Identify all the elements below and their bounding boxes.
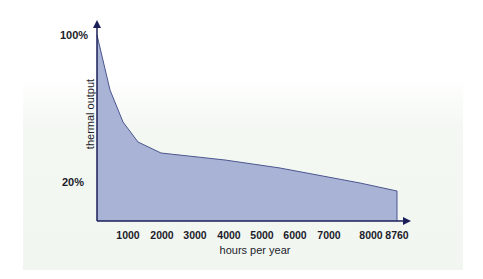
x-tick-3000: 3000 <box>183 229 206 241</box>
x-tick-4000: 4000 <box>217 229 240 241</box>
y-axis-title: thermal output <box>84 79 96 149</box>
area-fill <box>97 35 397 221</box>
x-axis-title: hours per year <box>220 244 291 256</box>
x-tick-8760: 8760 <box>385 229 408 241</box>
duration-curve-chart <box>0 0 483 279</box>
x-tick-2000: 2000 <box>150 229 173 241</box>
y-tick-100: 100% <box>60 29 88 41</box>
x-tick-7000: 7000 <box>317 229 340 241</box>
x-tick-6000: 6000 <box>283 229 306 241</box>
y-axis-arrow-icon <box>93 20 101 28</box>
x-tick-8000: 8000 <box>359 229 382 241</box>
x-tick-1000: 1000 <box>116 229 139 241</box>
x-axis-arrow-icon <box>403 217 411 225</box>
y-tick-20: 20% <box>62 176 84 188</box>
x-tick-5000: 5000 <box>250 229 273 241</box>
